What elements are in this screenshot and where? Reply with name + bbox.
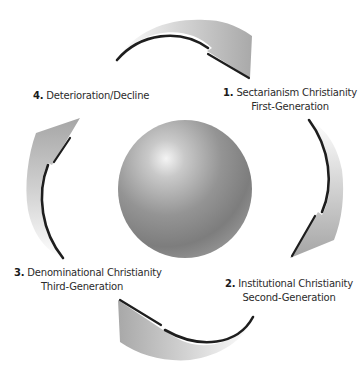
arrow-top bbox=[117, 20, 252, 78]
stage-3-number: 3. bbox=[14, 267, 24, 278]
cycle-graphics bbox=[0, 0, 360, 372]
stage-2-name: Institutional Christianity bbox=[238, 278, 353, 289]
stage-4-number: 4. bbox=[33, 90, 43, 101]
stage-2-number: 2. bbox=[225, 278, 235, 289]
stage-3-name: Denominational Christianity bbox=[27, 267, 161, 278]
stage-1-name: Sectarianism Christianity bbox=[236, 87, 357, 98]
stage-1-generation: First-Generation bbox=[222, 100, 358, 114]
stage-4-name: Deterioration/Decline bbox=[46, 90, 149, 101]
stage-2-generation: Second-Generation bbox=[224, 291, 354, 305]
stage-3-generation: Third-Generation bbox=[14, 280, 150, 294]
cycle-diagram: 4. Deterioration/Decline 1. Sectarianism… bbox=[0, 0, 360, 372]
arrow-right bbox=[290, 119, 343, 258]
arrow-bottom bbox=[118, 300, 253, 360]
stage-1-number: 1. bbox=[223, 87, 233, 98]
center-sphere bbox=[118, 120, 252, 258]
stage-3-label: 3. Denominational Christianity Third-Gen… bbox=[14, 266, 150, 294]
stage-4-label: 4. Deterioration/Decline bbox=[33, 89, 149, 103]
arrow-left bbox=[26, 118, 80, 259]
stage-2-label: 2. Institutional Christianity Second-Gen… bbox=[224, 277, 354, 305]
stage-1-label: 1. Sectarianism Christianity First-Gener… bbox=[222, 86, 358, 114]
